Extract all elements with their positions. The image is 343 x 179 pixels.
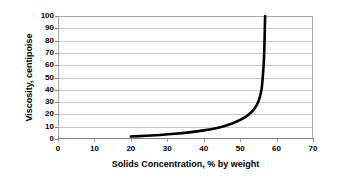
gridline-horizontal — [59, 114, 312, 115]
gridline-horizontal — [59, 53, 312, 54]
gridline-horizontal — [59, 90, 312, 91]
x-axis-tick-label: 10 — [81, 144, 107, 154]
y-axis-tick-mark — [55, 53, 58, 54]
x-axis-tick-mark — [313, 139, 314, 142]
gridline-horizontal — [59, 102, 312, 103]
y-axis-tick-label: 30 — [34, 98, 54, 106]
x-axis-tick-mark — [277, 139, 278, 142]
x-axis-tick-mark — [204, 139, 205, 142]
gridline-horizontal — [59, 78, 312, 79]
x-axis-tick-mark — [131, 139, 132, 142]
y-axis-tick-label: 60 — [34, 61, 54, 69]
x-axis-tick-label: 30 — [154, 144, 180, 154]
viscosity-chart: Viscosity, centipoise 010203040506070809… — [0, 0, 343, 179]
plot-area — [58, 16, 313, 139]
y-axis-tick-mark — [55, 102, 58, 103]
gridline-horizontal — [59, 127, 312, 128]
x-axis-tick-mark — [94, 139, 95, 142]
x-axis-tick-label: 40 — [191, 144, 217, 154]
y-axis-tick-label: 20 — [34, 110, 54, 118]
y-axis-tick-label: 80 — [34, 37, 54, 45]
y-axis-tick-mark — [55, 78, 58, 79]
x-axis-title: Solids Concentration, % by weight — [58, 159, 313, 169]
x-axis-tick-label: 50 — [227, 144, 253, 154]
x-axis-tick-mark — [240, 139, 241, 142]
y-axis-tick-label: 10 — [34, 123, 54, 131]
gridline-horizontal — [59, 41, 312, 42]
y-axis-tick-mark — [55, 65, 58, 66]
gridline-horizontal — [59, 28, 312, 29]
y-axis-tick-mark — [55, 28, 58, 29]
y-axis-tick-mark — [55, 16, 58, 17]
y-axis-tick-mark — [55, 127, 58, 128]
y-axis-tick-label: 40 — [34, 86, 54, 94]
x-axis-tick-mark — [167, 139, 168, 142]
y-axis-tick-mark — [55, 114, 58, 115]
x-axis-tick-labels: 010203040506070 — [0, 144, 343, 156]
y-axis-tick-mark — [55, 90, 58, 91]
gridline-horizontal — [59, 65, 312, 66]
y-axis-tick-label: 100 — [34, 12, 54, 20]
x-axis-tick-label: 60 — [264, 144, 290, 154]
y-axis-tick-label: 90 — [34, 24, 54, 32]
x-axis-tick-mark — [58, 139, 59, 142]
x-axis-tick-label: 20 — [118, 144, 144, 154]
y-axis-tick-label: 50 — [34, 74, 54, 82]
x-axis-tick-label: 70 — [300, 144, 326, 154]
y-axis-tick-mark — [55, 41, 58, 42]
y-axis-tick-label: 70 — [34, 49, 54, 57]
y-axis-tick-label: 0 — [34, 135, 54, 143]
x-axis-tick-label: 0 — [45, 144, 71, 154]
